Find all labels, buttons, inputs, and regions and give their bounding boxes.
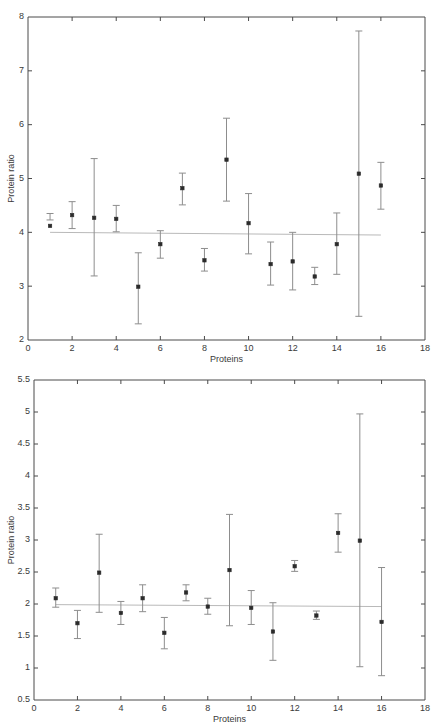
y-tick-label: 4 <box>25 470 30 480</box>
data-marker <box>119 611 122 614</box>
data-marker <box>335 242 338 245</box>
y-tick-label: 7 <box>19 65 24 75</box>
x-tick-label: 14 <box>332 343 342 353</box>
data-marker <box>206 605 209 608</box>
y-axis-label: Protein ratio <box>6 154 16 203</box>
data-point-group <box>356 414 363 667</box>
data-marker <box>269 262 272 265</box>
data-point-group <box>289 232 296 290</box>
data-point-group <box>183 585 190 601</box>
x-tick-label: 2 <box>75 703 80 713</box>
chart-panel-top: 0246810121416182345678ProteinsProtein ra… <box>0 0 439 362</box>
data-marker <box>379 184 382 187</box>
x-tick-label: 6 <box>162 703 167 713</box>
data-marker <box>115 217 118 220</box>
data-point-group <box>223 118 230 201</box>
data-point-group <box>157 231 164 258</box>
data-marker <box>54 597 57 600</box>
y-tick-label: 5 <box>25 406 30 416</box>
data-point-group <box>47 213 54 227</box>
data-point-group <box>291 560 298 571</box>
data-point-group <box>333 213 340 274</box>
data-marker <box>92 216 95 219</box>
data-marker <box>48 224 51 227</box>
y-tick-label: 8 <box>19 11 24 21</box>
y-tick-label: 3.5 <box>17 502 30 512</box>
y-axis-label: Protein ratio <box>6 516 16 565</box>
data-point-group <box>204 598 211 614</box>
y-tick-label: 1.5 <box>17 630 30 640</box>
y-tick-label: 4.5 <box>17 438 30 448</box>
data-point-group <box>267 242 274 285</box>
x-tick-label: 4 <box>118 703 123 713</box>
x-tick-label: 0 <box>31 703 36 713</box>
data-point-group <box>245 194 252 254</box>
data-marker <box>70 213 73 216</box>
data-marker <box>380 620 383 623</box>
data-marker <box>315 614 318 617</box>
data-marker <box>159 242 162 245</box>
x-tick-label: 10 <box>244 343 254 353</box>
data-marker <box>225 158 228 161</box>
chart-svg-top: 0246810121416182345678ProteinsProtein ra… <box>0 0 439 362</box>
data-point-group <box>91 159 98 276</box>
data-point-group <box>139 585 146 612</box>
data-point-group <box>161 617 168 648</box>
data-marker <box>163 631 166 634</box>
data-marker <box>313 275 316 278</box>
data-point-group <box>335 514 342 552</box>
x-tick-label: 8 <box>205 703 210 713</box>
y-tick-label: 2 <box>19 334 24 344</box>
data-point-group <box>377 162 384 209</box>
data-marker <box>141 597 144 600</box>
data-point-group <box>269 603 276 661</box>
x-axis-ticks: 024681012141618 <box>31 380 430 713</box>
data-marker <box>293 565 296 568</box>
x-axis-label: Proteins <box>213 714 247 724</box>
data-point-group <box>113 205 120 231</box>
x-tick-label: 14 <box>333 703 343 713</box>
data-marker <box>184 591 187 594</box>
data-point-group <box>226 514 233 625</box>
y-tick-label: 5 <box>19 173 24 183</box>
data-marker <box>76 622 79 625</box>
y-tick-label: 6 <box>19 119 24 129</box>
y-tick-label: 0.5 <box>17 694 30 704</box>
y-tick-label: 5.5 <box>17 374 30 384</box>
x-tick-label: 0 <box>25 343 30 353</box>
chart-panel-bottom: 0246810121416180.511.522.533.544.555.5Pr… <box>0 362 439 725</box>
data-marker <box>336 531 339 534</box>
x-tick-label: 2 <box>70 343 75 353</box>
x-tick-label: 18 <box>420 703 430 713</box>
data-point-group <box>74 610 81 638</box>
x-tick-label: 12 <box>290 703 300 713</box>
data-marker <box>181 186 184 189</box>
y-tick-label: 3 <box>19 281 24 291</box>
data-marker <box>203 259 206 262</box>
x-tick-label: 16 <box>376 343 386 353</box>
x-tick-label: 16 <box>377 703 387 713</box>
data-marker <box>358 539 361 542</box>
data-series <box>52 414 385 676</box>
data-point-group <box>355 31 362 316</box>
x-tick-label: 10 <box>246 703 256 713</box>
data-point-group <box>135 253 142 324</box>
data-point-group <box>378 568 385 676</box>
reference-line <box>56 605 382 607</box>
data-point-group <box>201 248 208 271</box>
data-marker <box>271 630 274 633</box>
x-axis-label: Proteins <box>210 354 244 362</box>
figure-container: 0246810121416182345678ProteinsProtein ra… <box>0 0 439 725</box>
x-axis-ticks: 024681012141618 <box>25 17 430 353</box>
y-tick-label: 4 <box>19 227 24 237</box>
data-point-group <box>311 267 318 284</box>
data-point-group <box>248 591 255 625</box>
x-tick-label: 12 <box>288 343 298 353</box>
data-marker <box>137 285 140 288</box>
y-tick-label: 2 <box>25 598 30 608</box>
x-tick-label: 4 <box>114 343 119 353</box>
data-point-group <box>179 173 186 205</box>
y-axis-ticks: 0.511.522.533.544.555.5 <box>17 374 425 704</box>
x-tick-label: 8 <box>202 343 207 353</box>
y-tick-label: 3 <box>25 534 30 544</box>
